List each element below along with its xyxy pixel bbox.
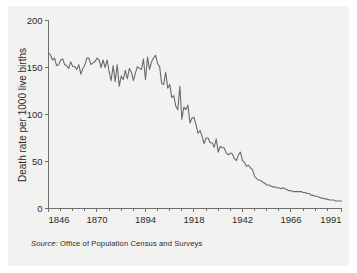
x-tick-label: 1942 xyxy=(232,214,253,225)
y-tick-label: 150 xyxy=(27,62,43,73)
tick-labels-group: 0501001502001846187018941918194219661991 xyxy=(27,15,342,225)
data-series-line xyxy=(49,52,342,201)
y-tick-label: 50 xyxy=(32,156,43,167)
y-tick-label: 200 xyxy=(27,15,43,26)
source-note: Source: Office of Population Census and … xyxy=(31,239,202,248)
source-keyword: Source: xyxy=(31,239,58,248)
y-tick-label: 100 xyxy=(27,109,43,120)
source-text: Office of Population Census and Surveys xyxy=(60,239,202,248)
infant-mortality-line-chart: Death rate per 1000 live births 05010015… xyxy=(0,0,357,273)
x-tick-label: 1846 xyxy=(49,214,70,225)
x-tick-label: 1870 xyxy=(86,214,107,225)
y-tick-label: 0 xyxy=(37,203,42,214)
x-tick-label: 1918 xyxy=(183,214,204,225)
axes-group xyxy=(49,21,342,209)
x-tick-label: 1894 xyxy=(135,214,156,225)
x-tick-label: 1966 xyxy=(280,214,301,225)
figure-container: Death rate per 1000 live births 05010015… xyxy=(0,0,357,273)
x-tick-label: 1991 xyxy=(320,214,341,225)
ticks-group xyxy=(45,21,342,213)
